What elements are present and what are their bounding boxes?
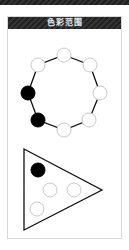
ring-node-bottom[interactable]	[57, 123, 71, 137]
ring-nodes	[21, 48, 107, 137]
ring-node-left[interactable]	[21, 86, 35, 100]
ring-node-top-right[interactable]	[83, 58, 97, 72]
triangle-node-top[interactable]	[31, 163, 45, 177]
triangle-nodes	[30, 163, 81, 216]
ring-node-bottom-left[interactable]	[31, 113, 45, 127]
puzzle-board	[0, 0, 129, 250]
triangle-node-bottom-left[interactable]	[30, 202, 44, 216]
ring-node-top-left[interactable]	[31, 58, 45, 72]
triangle-node-middle-right[interactable]	[67, 183, 81, 197]
ring-node-bottom-right[interactable]	[82, 113, 96, 127]
triangle-node-middle-left[interactable]	[43, 183, 57, 197]
ring-node-top[interactable]	[57, 48, 71, 62]
triangle-outline	[24, 149, 102, 230]
ring-node-right[interactable]	[93, 86, 107, 100]
